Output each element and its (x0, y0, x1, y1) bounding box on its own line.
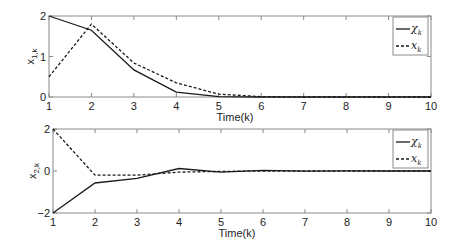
x-tick-label: 9 (386, 216, 392, 228)
top-subplot: 12345678910012Time(k)x1,kχkxk (24, 10, 437, 123)
legend: χkxk (393, 130, 428, 168)
legend: χkxk (393, 17, 428, 55)
y-tick-label: −2 (37, 207, 50, 219)
series-line-chi-k (49, 16, 431, 97)
x-tick-label: 10 (425, 100, 437, 112)
x-axis-label: Time(k) (219, 227, 256, 239)
x-tick-label: 7 (302, 216, 308, 228)
y-tick-label: 2 (40, 10, 46, 22)
x-tick-label: 3 (131, 100, 137, 112)
x-axis-label: Time(k) (217, 111, 254, 123)
x-tick-label: 9 (385, 100, 391, 112)
x-tick-label: 8 (344, 216, 350, 228)
y-axis-label-subscript: 2,k (32, 162, 41, 174)
y-tick-label: 1 (40, 51, 46, 63)
y-tick-label: 0 (44, 165, 50, 177)
x-tick-label: 1 (46, 100, 52, 112)
x-tick-label: 1 (50, 216, 56, 228)
series-line-x-k (53, 129, 431, 175)
x-tick-label: 4 (176, 216, 182, 228)
bottom-subplot: 12345678910−202Time(k)x2,kχkxk (26, 123, 437, 239)
series-line-x-k (49, 24, 431, 97)
y-axis-label-subscript: 1,k (30, 47, 39, 59)
legend-label-subscript: k (417, 159, 421, 167)
x-tick-label: 2 (88, 100, 94, 112)
legend-label-subscript: k (418, 29, 422, 37)
y-tick-label: 0 (40, 91, 46, 103)
legend-label-subscript: k (418, 142, 422, 150)
legend-label-subscript: k (417, 46, 421, 54)
chart-figure: 12345678910012Time(k)x1,kχkxk 1234567891… (0, 0, 458, 248)
x-tick-label: 2 (92, 216, 98, 228)
x-tick-label: 6 (260, 216, 266, 228)
x-tick-label: 4 (173, 100, 179, 112)
y-tick-label: 2 (44, 123, 50, 135)
y-axis-label: x1,k (24, 47, 39, 64)
x-tick-label: 3 (134, 216, 140, 228)
x-tick-label: 10 (425, 216, 437, 228)
x-tick-label: 6 (258, 100, 264, 112)
y-axis-label: x2,k (26, 162, 41, 179)
axes-frame (49, 16, 431, 97)
x-tick-label: 7 (301, 100, 307, 112)
x-tick-label: 8 (343, 100, 349, 112)
